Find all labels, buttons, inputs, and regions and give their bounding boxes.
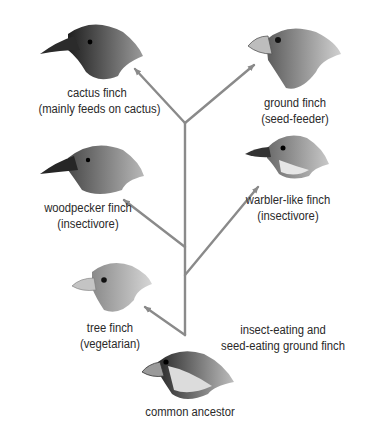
warbler-finch-illustration bbox=[245, 130, 335, 180]
ancestor-description: insect-eating and seed-eating ground fin… bbox=[216, 322, 351, 354]
ground-finch-label: ground finch (seed-feeder) bbox=[246, 95, 345, 127]
tree-finch-illustration bbox=[70, 258, 154, 316]
ground-finch-illustration bbox=[246, 20, 346, 92]
woodpecker-finch-label: woodpecker finch (insectivore) bbox=[25, 200, 151, 232]
woodpecker-finch-illustration bbox=[38, 138, 148, 196]
cactus-finch-illustration bbox=[38, 14, 148, 82]
branch-ground bbox=[185, 65, 254, 123]
common-ancestor-label: common ancestor bbox=[136, 404, 244, 420]
cactus-finch-label: cactus finch (mainly feeds on cactus) bbox=[39, 85, 156, 117]
common-ancestor-illustration bbox=[142, 346, 237, 400]
warbler-finch-label: warbler-like finch (insectivore) bbox=[234, 192, 342, 224]
